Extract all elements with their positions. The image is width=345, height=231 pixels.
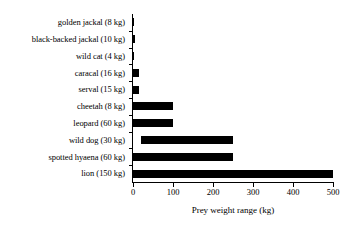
bar-row [133,132,333,149]
x-axis-line [132,182,334,183]
x-axis-tick-label: 200 [207,188,220,197]
bar-cheetah [133,102,173,110]
y-axis-label-black-backed-jackal: black-backed jackal (10 kg) [0,31,129,48]
bar-wild-dog [141,136,233,144]
x-axis-tick-label: 0 [131,188,135,197]
x-axis-tick-label: 300 [247,188,260,197]
x-axis-title: Prey weight range (kg) [133,206,333,215]
y-axis-label-caracal: caracal (16 kg) [0,64,129,81]
y-axis-label-spotted-hyaena: spotted hyaena (60 kg) [0,148,129,165]
bar-row [133,14,333,31]
bar-row [133,81,333,98]
bar-row [133,148,333,165]
y-axis-label-lion: lion (150 kg) [0,165,129,182]
bar-wild-cat [133,52,134,60]
y-axis-label-serval: serval (15 kg) [0,81,129,98]
bar-row [133,115,333,132]
y-axis-label-leopard: leopard (60 kg) [0,115,129,132]
bar-black-backed-jackal [133,35,135,43]
bar-leopard [133,119,173,127]
bar-golden-jackal [133,18,134,26]
y-axis-label-cheetah: cheetah (8 kg) [0,98,129,115]
x-axis-tick-label: 100 [167,188,180,197]
x-axis-tick-label: 400 [287,188,300,197]
bar-row [133,48,333,65]
y-axis-label-wild-cat: wild cat (4 kg) [0,48,129,65]
prey-weight-range-chart: golden jackal (8 kg) black-backed jackal… [0,0,345,231]
bar-caracal [133,69,139,77]
bar-serval [133,86,139,94]
bar-row [133,64,333,81]
bar-spotted-hyaena [133,153,233,161]
y-axis-label-wild-dog: wild dog (30 kg) [0,132,129,149]
x-axis-tick-label: 500 [327,188,340,197]
y-axis-label-golden-jackal: golden jackal (8 kg) [0,14,129,31]
bar-lion [133,170,333,178]
bar-series [133,14,333,182]
y-axis-category-labels: golden jackal (8 kg) black-backed jackal… [0,14,129,182]
bar-row [133,165,333,182]
bar-row [133,31,333,48]
bar-row [133,98,333,115]
plot-area: 0100200300400500 [133,14,333,182]
